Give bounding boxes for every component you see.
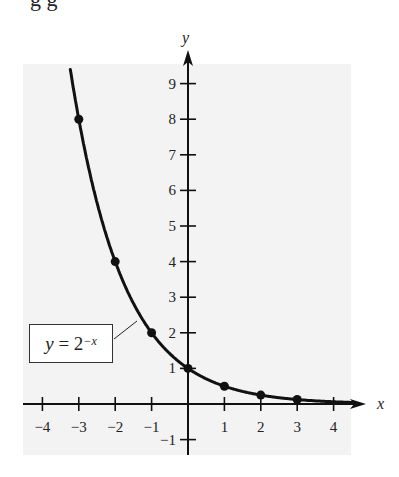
- x-tick-label: 2: [257, 419, 265, 435]
- x-tick-label: −2: [107, 419, 123, 435]
- x-tick-label: 1: [221, 419, 229, 435]
- annotation-leader-line: [114, 321, 137, 339]
- data-point: [111, 257, 120, 266]
- y-tick-label: 6: [169, 182, 177, 198]
- function-label-box: y = 2 −x: [29, 324, 113, 363]
- formula-exponent: −x: [83, 334, 96, 349]
- y-tick-label: 1: [169, 360, 177, 376]
- data-point: [74, 115, 83, 124]
- x-tick-label: −1: [144, 419, 160, 435]
- y-tick-label: 3: [169, 289, 177, 305]
- data-point: [293, 395, 302, 404]
- y-tick-label: 2: [169, 325, 177, 341]
- x-tick-label: 4: [330, 419, 338, 435]
- y-tick-label: 4: [169, 254, 177, 270]
- data-point: [147, 328, 156, 337]
- plot-area: −4−3−2−11234−1123456789 x y: [0, 0, 399, 477]
- formula-lhs: y: [45, 333, 53, 355]
- x-tick-label: −3: [71, 419, 87, 435]
- data-point: [184, 364, 193, 373]
- axes: [23, 50, 366, 455]
- x-tick-label: −4: [34, 419, 50, 435]
- data-point: [220, 382, 229, 391]
- y-tick-label: 7: [169, 147, 177, 163]
- data-point: [256, 391, 265, 400]
- y-tick-label: −1: [160, 432, 176, 448]
- y-tick-label: 9: [169, 76, 177, 92]
- x-axis-label: x: [376, 395, 384, 412]
- formula-base: 2: [74, 333, 84, 355]
- y-tick-label: 8: [169, 111, 177, 127]
- formula-equals: =: [54, 333, 74, 355]
- x-tick-label: 3: [293, 419, 301, 435]
- y-axis-label: y: [180, 29, 190, 47]
- y-tick-label: 5: [169, 218, 177, 234]
